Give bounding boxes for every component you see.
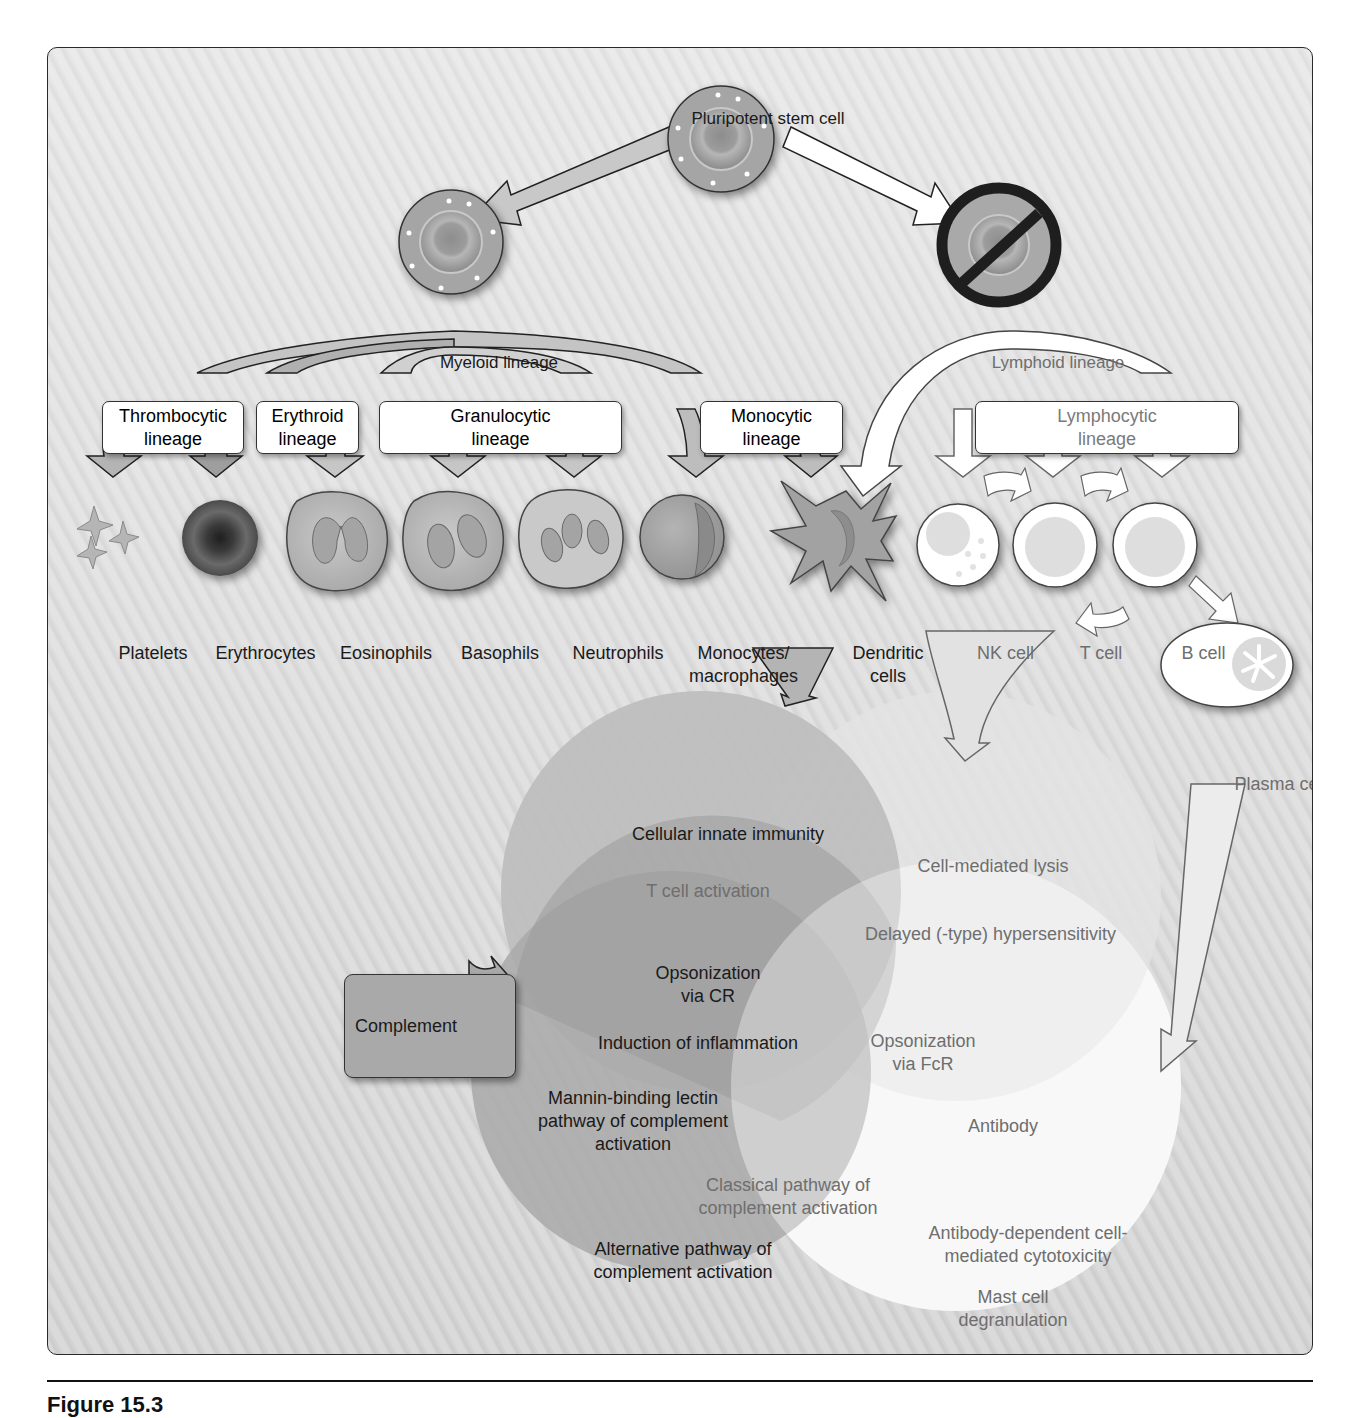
cell-label-dendritic-cells: Dendritic cells bbox=[833, 642, 943, 688]
neutrophil-illustration bbox=[519, 490, 623, 589]
venn-label-cellular-innate-immunity: Cellular innate immunity bbox=[608, 823, 848, 846]
complement-label: Complement bbox=[355, 1016, 457, 1037]
venn-label-antibody: Antibody bbox=[948, 1115, 1058, 1138]
lymphoid-lineage-label: Lymphoid lineage bbox=[963, 351, 1153, 374]
figure-panel: Pluripotent stem cell Myeloid lineage Ly… bbox=[47, 47, 1313, 1355]
t-cell-illustration bbox=[1013, 503, 1097, 587]
cell-label-platelets: Platelets bbox=[103, 642, 203, 665]
diagram-illustration bbox=[48, 48, 1313, 1355]
venn-label-adcc: Antibody-dependent cell- mediated cytoto… bbox=[903, 1222, 1153, 1268]
erythroid-lineage-label: Erythroid lineage bbox=[271, 405, 343, 451]
venn-label-opsonization-via-fcr: Opsonization via FcR bbox=[853, 1030, 993, 1076]
monocytic-lineage-label: Monocytic lineage bbox=[731, 405, 812, 451]
venn-label-mannin-binding-lectin: Mannin-binding lectin pathway of complem… bbox=[508, 1087, 758, 1156]
venn-label-alternative-pathway: Alternative pathway of complement activa… bbox=[568, 1238, 798, 1284]
thrombocytic-lineage-label: Thrombocytic lineage bbox=[119, 405, 227, 451]
lymphocytic-lineage-label: Lymphocytic lineage bbox=[1057, 405, 1156, 451]
plasma-cell-illustration bbox=[1161, 623, 1293, 707]
figure-caption: Figure 15.3 bbox=[47, 1392, 163, 1418]
granulocytic-lineage-box: Granulocytic lineage bbox=[379, 401, 622, 454]
myeloid-stem-cell bbox=[399, 190, 503, 294]
erythroid-lineage-box: Erythroid lineage bbox=[256, 401, 359, 454]
venn-label-opsonization-via-cr: Opsonization via CR bbox=[638, 962, 778, 1008]
cell-label-plasma-cell: Plasma cell bbox=[1218, 773, 1313, 796]
b-cell-illustration bbox=[1113, 503, 1197, 587]
venn-label-mast-cell-degranulation: Mast cell degranulation bbox=[943, 1286, 1083, 1332]
monocytic-lineage-box: Monocytic lineage bbox=[700, 401, 843, 454]
venn-label-induction-of-inflammation: Induction of inflammation bbox=[583, 1032, 813, 1055]
thrombocytic-lineage-box: Thrombocytic lineage bbox=[102, 401, 244, 454]
erythrocyte-illustration bbox=[182, 500, 258, 576]
cell-label-nk-cell: NK cell bbox=[963, 642, 1048, 665]
venn-label-cell-mediated-lysis: Cell-mediated lysis bbox=[898, 855, 1088, 878]
pluripotent-stem-cell bbox=[668, 86, 774, 192]
dendritic-cell-illustration bbox=[771, 481, 896, 601]
venn-label-delayed-hypersensitivity: Delayed (-type) hypersensitivity bbox=[848, 923, 1133, 946]
venn-label-t-cell-activation: T cell activation bbox=[618, 880, 798, 903]
cell-label-erythrocytes: Erythrocytes bbox=[203, 642, 328, 665]
granulocytic-lineage-label: Granulocytic lineage bbox=[450, 405, 550, 451]
monocyte-illustration bbox=[640, 495, 724, 579]
basophil-illustration bbox=[403, 492, 503, 591]
plasma-to-antibody-arrow bbox=[1161, 784, 1245, 1071]
pluripotent-stem-cell-label: Pluripotent stem cell bbox=[638, 107, 898, 130]
cell-label-eosinophils: Eosinophils bbox=[330, 642, 442, 665]
venn-label-classical-pathway: Classical pathway of complement activati… bbox=[678, 1174, 898, 1220]
nk-cell-illustration bbox=[917, 504, 999, 586]
eosinophil-illustration bbox=[287, 492, 388, 591]
complement-box: Complement bbox=[344, 974, 516, 1078]
cell-label-b-cell: B cell bbox=[1166, 642, 1241, 665]
cell-label-neutrophils: Neutrophils bbox=[562, 642, 674, 665]
myeloid-lineage-label: Myeloid lineage bbox=[414, 351, 584, 374]
cell-label-monocytes-macrophages: Monocytes/ macrophages bbox=[676, 642, 811, 688]
cell-label-t-cell: T cell bbox=[1066, 642, 1136, 665]
lymphoid-stem-cell-blocked bbox=[942, 188, 1056, 302]
cell-label-basophils: Basophils bbox=[448, 642, 552, 665]
platelets-illustration bbox=[77, 506, 139, 569]
caption-divider bbox=[47, 1380, 1313, 1382]
lymphocytic-lineage-box: Lymphocytic lineage bbox=[975, 401, 1239, 454]
